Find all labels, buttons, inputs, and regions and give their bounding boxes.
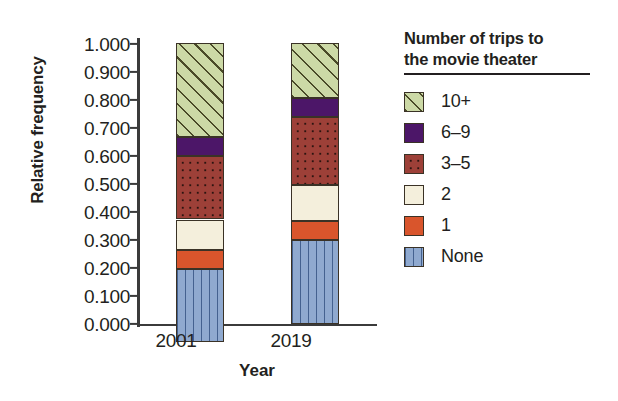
legend-label: None	[441, 246, 483, 267]
y-tick-label: 0.600	[52, 147, 130, 166]
bar-segment-2	[176, 220, 224, 250]
legend-title-line-2: the movie theater	[404, 49, 608, 70]
stacked-bar-2019	[291, 42, 339, 324]
x-axis-line	[137, 324, 377, 327]
legend-title-line-1: Number of trips to	[404, 28, 608, 49]
y-tick-label: 0.400	[52, 203, 130, 222]
x-axis-title: Year	[137, 361, 377, 381]
bar-segment-1	[291, 221, 339, 240]
bar-segment-6-9	[291, 98, 339, 117]
stacked-bar-2001	[176, 42, 224, 324]
legend-swatch-1	[404, 216, 424, 236]
legend-label: 2	[441, 184, 451, 205]
legend: Number of trips to the movie theater 10+…	[404, 28, 608, 272]
bar-segment-1	[176, 250, 224, 269]
legend-label: 6–9	[441, 122, 470, 143]
legend-swatch-10-plus	[404, 92, 424, 112]
legend-item-10-plus[interactable]: 10+	[404, 86, 608, 117]
legend-items: 10+ 6–9 3–5 2 1 None	[404, 86, 608, 272]
y-axis-line	[137, 38, 140, 327]
y-tick-label: 1.000	[52, 35, 130, 54]
legend-title: Number of trips to the movie theater	[404, 28, 608, 70]
y-axis-tick-labels: 1.000 0.900 0.800 0.700 0.600 0.500 0.40…	[52, 0, 130, 401]
x-category-label-2001: 2001	[121, 330, 231, 352]
legend-label: 10+	[441, 91, 471, 112]
legend-swatch-6-9	[404, 123, 424, 143]
legend-item-1[interactable]: 1	[404, 210, 608, 241]
legend-divider	[404, 73, 590, 75]
x-category-label-2019: 2019	[236, 330, 346, 352]
bar-segment-10-plus	[291, 43, 339, 98]
bar-segment-6-9	[176, 137, 224, 156]
y-tick-label: 0.800	[52, 91, 130, 110]
bar-segment-3-5	[176, 156, 224, 220]
bar-segment-10-plus	[176, 43, 224, 137]
bar-segment-2	[291, 185, 339, 221]
stacked-bar-chart: Relative frequency 1.000 0.900 0.800 0.7…	[0, 0, 618, 401]
legend-swatch-3-5	[404, 154, 424, 174]
legend-swatch-2	[404, 185, 424, 205]
bar-segment-none	[291, 240, 339, 324]
y-axis-title: Relative frequency	[28, 0, 48, 260]
legend-label: 3–5	[441, 153, 470, 174]
legend-item-6-9[interactable]: 6–9	[404, 117, 608, 148]
legend-item-3-5[interactable]: 3–5	[404, 148, 608, 179]
y-tick-label: 0.500	[52, 175, 130, 194]
y-tick-label: 0.000	[52, 315, 130, 334]
y-tick-label: 0.700	[52, 119, 130, 138]
y-tick-label: 0.100	[52, 287, 130, 306]
legend-item-none[interactable]: None	[404, 241, 608, 272]
y-tick-label: 0.300	[52, 231, 130, 250]
legend-swatch-none	[404, 247, 424, 267]
legend-item-2[interactable]: 2	[404, 179, 608, 210]
y-tick-label: 0.900	[52, 63, 130, 82]
y-tick-label: 0.200	[52, 259, 130, 278]
bar-segment-3-5	[291, 117, 339, 185]
legend-label: 1	[441, 215, 451, 236]
